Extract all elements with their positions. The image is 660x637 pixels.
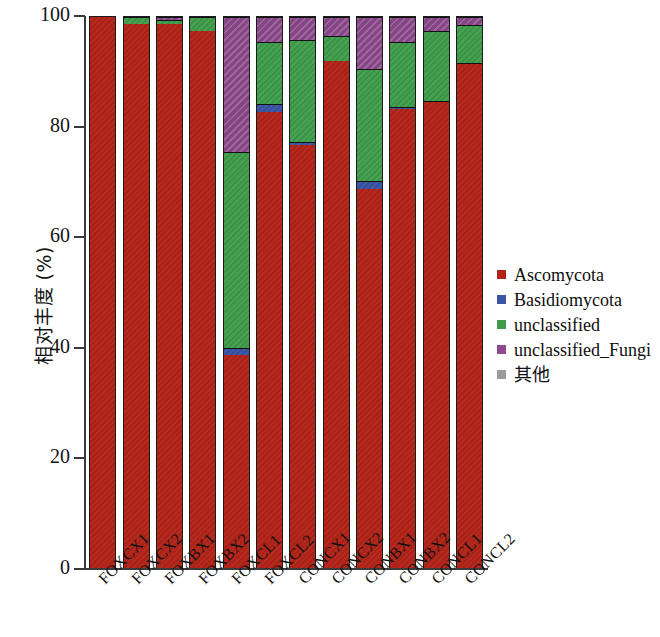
bar-stack[interactable] bbox=[156, 16, 183, 569]
legend-item[interactable]: 其他 bbox=[497, 362, 657, 387]
bar-segment[interactable] bbox=[457, 64, 482, 568]
legend-swatch-icon bbox=[497, 295, 506, 304]
bar-segment[interactable] bbox=[290, 17, 315, 40]
bar-column[interactable] bbox=[156, 16, 183, 569]
stacked-bar-chart: 相对丰度 (%) 020406080100 FOXCX1FOXCX2FOXBX1… bbox=[0, 0, 660, 637]
bar-segment[interactable] bbox=[390, 17, 415, 42]
legend-swatch-icon bbox=[497, 370, 506, 379]
bar-column[interactable] bbox=[189, 16, 216, 569]
bar-segment[interactable] bbox=[424, 102, 449, 568]
bar-segment[interactable] bbox=[390, 109, 415, 568]
bar-segment[interactable] bbox=[357, 181, 382, 189]
bar-segment[interactable] bbox=[357, 69, 382, 181]
bar-stack[interactable] bbox=[389, 16, 416, 569]
y-axis-tick-label: 20 bbox=[26, 445, 70, 468]
bar-segment[interactable] bbox=[457, 63, 482, 64]
bar-stack[interactable] bbox=[256, 16, 283, 569]
y-axis-tick-label: 80 bbox=[26, 114, 70, 137]
legend-label: unclassified bbox=[514, 316, 600, 334]
bar-segment[interactable] bbox=[457, 25, 482, 62]
bar-segment[interactable] bbox=[257, 17, 282, 42]
bar-segment[interactable] bbox=[157, 24, 182, 568]
bar-segment[interactable] bbox=[424, 101, 449, 103]
bar-segment[interactable] bbox=[124, 24, 149, 568]
legend-swatch-icon bbox=[497, 345, 506, 354]
bar-segment[interactable] bbox=[190, 17, 215, 31]
bar-column[interactable] bbox=[289, 16, 316, 569]
legend: AscomycotaBasidiomycotaunclassifieduncla… bbox=[497, 262, 657, 387]
bar-segment[interactable] bbox=[224, 152, 249, 348]
bar-stack[interactable] bbox=[89, 16, 116, 569]
bar-segment[interactable] bbox=[257, 42, 282, 104]
bar-column[interactable] bbox=[456, 16, 483, 569]
bar-segment[interactable] bbox=[124, 17, 149, 24]
bar-segment[interactable] bbox=[290, 142, 315, 145]
legend-swatch-icon bbox=[497, 270, 506, 279]
plot-area bbox=[86, 16, 486, 569]
bar-segment[interactable] bbox=[457, 17, 482, 25]
bar-segment[interactable] bbox=[324, 61, 349, 568]
bar-column[interactable] bbox=[323, 16, 350, 569]
bar-segment[interactable] bbox=[157, 17, 182, 20]
bar-stack[interactable] bbox=[423, 16, 450, 569]
bar-segment[interactable] bbox=[424, 17, 449, 31]
y-axis-tick-label: 60 bbox=[26, 224, 70, 247]
legend-item[interactable]: Ascomycota bbox=[497, 262, 657, 287]
legend-label: unclassified_Fungi bbox=[514, 341, 651, 359]
bar-column[interactable] bbox=[256, 16, 283, 569]
y-axis-tick bbox=[74, 347, 85, 349]
bar-column[interactable] bbox=[356, 16, 383, 569]
y-axis-tick-label: 100 bbox=[26, 3, 70, 26]
y-axis-tick bbox=[74, 236, 85, 238]
bar-segment[interactable] bbox=[357, 189, 382, 568]
bar-stack[interactable] bbox=[189, 16, 216, 569]
bar-segment[interactable] bbox=[390, 42, 415, 107]
legend-item[interactable]: unclassified_Fungi bbox=[497, 337, 657, 362]
bar-column[interactable] bbox=[123, 16, 150, 569]
legend-item[interactable]: unclassified bbox=[497, 312, 657, 337]
legend-label: Ascomycota bbox=[514, 266, 604, 284]
legend-label: 其他 bbox=[514, 366, 550, 384]
bar-column[interactable] bbox=[223, 16, 250, 569]
bar-column[interactable] bbox=[423, 16, 450, 569]
bar-segment[interactable] bbox=[224, 348, 249, 356]
legend-item[interactable]: Basidiomycota bbox=[497, 287, 657, 312]
bar-segment[interactable] bbox=[190, 31, 215, 568]
bar-segment[interactable] bbox=[257, 104, 282, 112]
bar-column[interactable] bbox=[89, 16, 116, 569]
bar-stack[interactable] bbox=[323, 16, 350, 569]
legend-swatch-icon bbox=[497, 320, 506, 329]
bar-segment[interactable] bbox=[290, 145, 315, 568]
y-axis-tick-label: 40 bbox=[26, 335, 70, 358]
y-axis-tick bbox=[74, 457, 85, 459]
bar-segment[interactable] bbox=[424, 31, 449, 101]
bar-column[interactable] bbox=[389, 16, 416, 569]
bar-segment[interactable] bbox=[157, 20, 182, 24]
bar-segment[interactable] bbox=[257, 112, 282, 568]
bar-stack[interactable] bbox=[456, 16, 483, 569]
bar-stack[interactable] bbox=[289, 16, 316, 569]
legend-label: Basidiomycota bbox=[514, 291, 622, 309]
y-axis-tick bbox=[74, 126, 85, 128]
bar-segment[interactable] bbox=[324, 17, 349, 36]
bar-segment[interactable] bbox=[357, 17, 382, 69]
bar-stack[interactable] bbox=[356, 16, 383, 569]
bar-segment[interactable] bbox=[290, 40, 315, 142]
y-axis-tick-label: 0 bbox=[26, 556, 70, 579]
bar-segment[interactable] bbox=[90, 17, 115, 568]
y-axis-tick bbox=[74, 15, 85, 17]
bar-segment[interactable] bbox=[324, 36, 349, 61]
bar-stack[interactable] bbox=[123, 16, 150, 569]
bar-segment[interactable] bbox=[390, 107, 415, 109]
bar-segment[interactable] bbox=[224, 17, 249, 152]
bar-stack[interactable] bbox=[223, 16, 250, 569]
